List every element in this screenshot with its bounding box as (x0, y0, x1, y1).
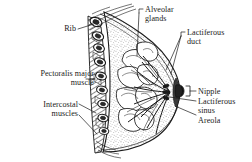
label-lactiferous-sinus-line2: sinus (198, 106, 215, 115)
label-intercostal-line1: Intercostal (6, 100, 78, 109)
leader-duct (181, 32, 185, 36)
label-alveolar-glands-line2: glands (145, 14, 166, 23)
label-areola: Areola (198, 116, 220, 125)
leader-areola (175, 106, 196, 115)
breast-anatomy-figure: Rib Pectoralis major muscle Intercostal … (0, 0, 252, 162)
label-lactiferous-duct-line1: Lactiferous (187, 28, 224, 37)
lactiferous-sinus (162, 83, 169, 101)
nipple (175, 85, 184, 97)
label-lactiferous-duct-line2: duct (187, 37, 201, 46)
label-pectoralis-major-line1: Pectoralis major (6, 69, 94, 78)
label-lactiferous-sinus-line1: Lactiferous (198, 97, 235, 106)
label-rib: Rib (44, 24, 76, 33)
label-nipple: Nipple (198, 87, 220, 96)
label-intercostal-line2: muscles (6, 109, 78, 118)
label-alveolar-glands-line1: Alveolar (145, 5, 174, 14)
label-pectoralis-major-line2: muscle (6, 78, 94, 87)
leader-nipple (186, 86, 190, 96)
